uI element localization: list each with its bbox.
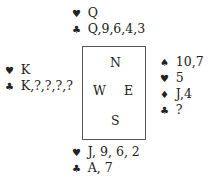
compass-west-label: W [93, 84, 106, 98]
east-diamonds-row: ♦ J,4 [160, 86, 204, 102]
west-clubs-row: ♣ K,?,?,?,? [5, 78, 73, 94]
east-clubs-row: ♣ ? [160, 102, 204, 118]
south-hearts-cards: J, 9, 6, 2 [88, 144, 140, 159]
south-clubs-row: ♣ A, 7 [72, 160, 140, 176]
west-clubs-cards: K,?,?,?,? [21, 78, 73, 93]
compass-south-label: S [111, 114, 120, 128]
east-hearts-cards: 5 [176, 70, 184, 85]
compass-east-label: E [124, 84, 133, 98]
west-hearts-cards: K [21, 62, 30, 77]
west-hand: ♥ K ♣ K,?,?,?,? [5, 62, 73, 94]
south-clubs-cards: A, 7 [88, 160, 113, 175]
north-clubs-cards: Q,9,6,4,3 [88, 21, 145, 36]
hearts-icon: ♥ [160, 71, 172, 87]
clubs-icon: ♣ [72, 22, 84, 38]
compass-north-label: N [110, 56, 121, 70]
spades-icon: ♠ [160, 55, 172, 71]
east-diamonds-cards: J,4 [176, 86, 192, 101]
east-hearts-row: ♥ 5 [160, 70, 204, 86]
north-clubs-row: ♣ Q,9,6,4,3 [72, 21, 145, 37]
compass-box: N W E S [82, 46, 146, 140]
west-hearts-row: ♥ K [5, 62, 73, 78]
north-hand: ♥ Q ♣ Q,9,6,4,3 [72, 5, 145, 37]
east-hand: ♠ 10,7 ♥ 5 ♦ J,4 ♣ ? [160, 54, 204, 118]
south-hand: ♥ J, 9, 6, 2 ♣ A, 7 [72, 144, 140, 176]
clubs-icon: ♣ [5, 79, 17, 95]
east-spades-cards: 10,7 [176, 54, 204, 69]
hearts-icon: ♥ [72, 6, 84, 22]
east-spades-row: ♠ 10,7 [160, 54, 204, 70]
north-hearts-row: ♥ Q [72, 5, 145, 21]
diamonds-icon: ♦ [160, 87, 172, 103]
clubs-icon: ♣ [160, 103, 172, 119]
east-clubs-cards: ? [176, 102, 183, 117]
hearts-icon: ♥ [5, 63, 17, 79]
north-hearts-cards: Q [88, 5, 98, 20]
south-hearts-row: ♥ J, 9, 6, 2 [72, 144, 140, 160]
hearts-icon: ♥ [72, 145, 84, 161]
clubs-icon: ♣ [72, 161, 84, 177]
